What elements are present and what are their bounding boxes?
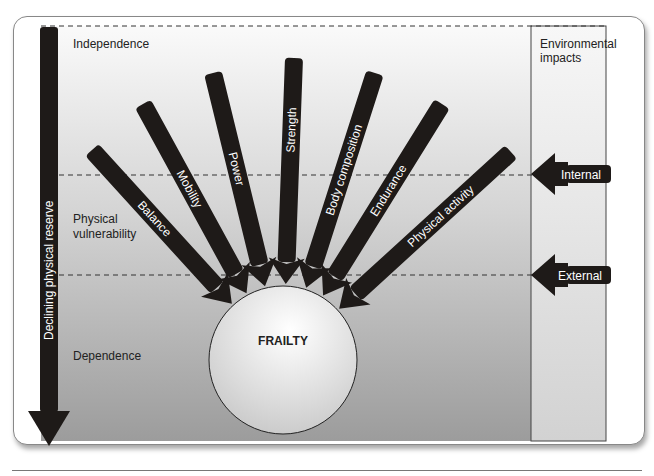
- zone-label-vulnerability-2: vulnerability: [73, 227, 136, 241]
- internal-label: Internal: [561, 168, 601, 182]
- environment-panel: [531, 26, 606, 441]
- environment-title-2: impacts: [540, 51, 581, 65]
- factor-label: Strength: [284, 107, 300, 153]
- environment-title-1: Environmental: [540, 37, 617, 51]
- frailty-diagram: Declining physical reserve Independence …: [0, 0, 654, 476]
- zone-label-independence: Independence: [73, 37, 149, 51]
- zone-label-dependence: Dependence: [73, 349, 141, 363]
- frailty-circle: [209, 286, 357, 434]
- zone-label-vulnerability-1: Physical: [73, 212, 118, 226]
- frailty-label: FRAILTY: [258, 334, 308, 348]
- external-label: External: [558, 269, 602, 283]
- vertical-axis-label: Declining physical reserve: [42, 200, 56, 340]
